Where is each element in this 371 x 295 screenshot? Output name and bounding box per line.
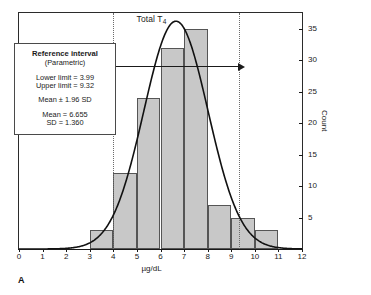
x-tick-label: 6	[152, 252, 170, 261]
y-tick-mark	[299, 186, 303, 187]
y-axis-title: Count	[320, 110, 329, 131]
histogram-bar	[113, 173, 137, 249]
y-tick-mark	[299, 218, 303, 219]
x-tick-label: 4	[104, 252, 122, 261]
y-tick-label: 20	[308, 119, 317, 127]
histogram-bar	[231, 218, 255, 249]
x-axis-title: µg/dL	[0, 264, 303, 273]
y-tick-mark	[299, 92, 303, 93]
x-tick-label: 1	[34, 252, 52, 261]
y-tick-mark	[299, 60, 303, 61]
y-tick-mark	[299, 29, 303, 30]
x-tick-label: 12	[293, 252, 311, 261]
y-tick-mark	[299, 155, 303, 156]
x-tick-label: 8	[199, 252, 217, 261]
y-tick-label: 15	[308, 151, 317, 159]
y-tick-mark	[299, 123, 303, 124]
y-tick-label: 30	[308, 56, 317, 64]
arrow-head-right-icon	[238, 63, 245, 71]
info-mean-sd-rule: Mean ± 1.96 SD	[19, 96, 111, 104]
x-tick-label: 3	[81, 252, 99, 261]
histogram-bar	[161, 48, 185, 249]
y-tick-label: 35	[308, 25, 317, 33]
info-upper-limit: Upper limit = 9.32	[19, 82, 111, 90]
reference-line-upper-limit	[239, 13, 240, 249]
x-tick-label: 5	[128, 252, 146, 261]
histogram-bar	[184, 29, 208, 249]
histogram-bar	[208, 205, 232, 249]
x-tick-label: 2	[57, 252, 75, 261]
reference-interval-arrow	[113, 66, 239, 67]
x-tick-label: 10	[246, 252, 264, 261]
info-box-subtitle: (Parametric)	[19, 59, 111, 67]
info-box-title: Reference interval	[19, 50, 111, 58]
info-sd: SD = 1.360	[19, 119, 111, 127]
x-tick-label: 7	[175, 252, 193, 261]
x-tick-label: 9	[222, 252, 240, 261]
x-tick-label: 11	[269, 252, 287, 261]
x-tick-label: 0	[10, 252, 28, 261]
y-tick-label: 5	[308, 214, 312, 222]
panel-label: A	[18, 275, 25, 285]
figure-panel-a: Total T4 Reference interval (Parametric)…	[0, 0, 371, 295]
y-tick-label: 25	[308, 88, 317, 96]
histogram-bar	[255, 230, 279, 249]
y-tick-label: 10	[308, 182, 317, 190]
histogram-bar	[90, 230, 114, 249]
reference-interval-box: Reference interval (Parametric) Lower li…	[14, 43, 116, 135]
histogram-bar	[137, 98, 161, 249]
